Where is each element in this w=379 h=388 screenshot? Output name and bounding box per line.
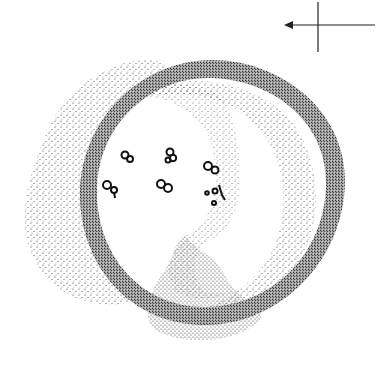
cell-illustration [0,0,379,388]
granule-1 [122,152,134,163]
granule-4 [103,181,117,198]
granule-5 [157,180,172,192]
inner-cytoplasm-curve [130,84,250,298]
granule-2 [166,149,177,163]
granules [103,149,225,206]
orientation-crosshair-icon [284,2,375,52]
